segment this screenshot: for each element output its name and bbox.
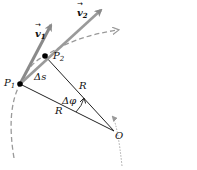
label-delta-phi: Δφ bbox=[61, 95, 76, 106]
radius-line-p2 bbox=[45, 56, 114, 131]
label-r-upper: R bbox=[78, 80, 87, 91]
label-v2: v2 bbox=[77, 7, 88, 20]
vector-arrow-v2: → bbox=[77, 0, 83, 8]
radius-line-p1 bbox=[20, 84, 114, 131]
label-r-lower: R bbox=[54, 105, 63, 116]
point-p2 bbox=[42, 53, 48, 59]
point-p1 bbox=[17, 81, 23, 87]
circular-motion-diagram: v1 → v2 → P1 P2 Δs R R Δφ O bbox=[0, 0, 197, 170]
label-p2: P2 bbox=[52, 50, 65, 63]
delta-phi-arc bbox=[76, 98, 84, 112]
vector-arrow-v1: → bbox=[35, 21, 41, 29]
label-delta-s: Δs bbox=[33, 71, 46, 82]
rotation-arc-dotted-head bbox=[113, 117, 122, 166]
label-p1: P1 bbox=[3, 77, 15, 90]
label-origin: O bbox=[115, 130, 123, 141]
label-v1: v1 bbox=[35, 28, 46, 41]
rotation-arc-dotted bbox=[113, 117, 122, 166]
circular-path-dashed bbox=[11, 30, 118, 158]
